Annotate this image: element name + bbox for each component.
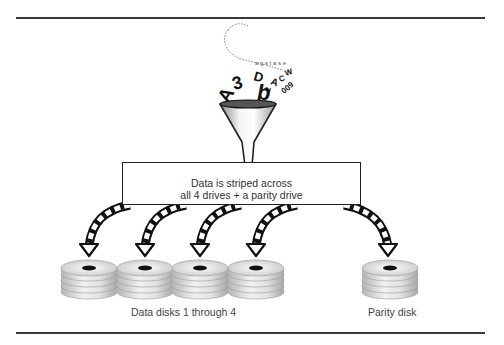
parity-disk-label: Parity disk xyxy=(368,306,416,318)
data-disks-label: Data disks 1 through 4 xyxy=(131,306,236,318)
bottom-rule xyxy=(16,332,485,334)
curved-arrow-icon xyxy=(80,205,130,256)
disk-stack-icon xyxy=(61,260,117,299)
process-box-line1: Data is striped across xyxy=(191,177,292,189)
funnel-icon xyxy=(220,100,276,167)
curved-arrow-icon xyxy=(136,205,186,256)
svg-text:a g s t a s e: a g s t a s e xyxy=(255,60,287,66)
curved-arrow-icon xyxy=(344,205,397,256)
data-stream: a g s t a s e 3 D b A A 2 C W 009 xyxy=(213,24,296,106)
disk-stack-icon xyxy=(228,260,284,299)
disk-stack-icon xyxy=(117,260,173,299)
disk-stack-icon xyxy=(172,260,228,299)
data-disks xyxy=(61,260,284,299)
parity-disk xyxy=(362,260,418,299)
process-box-line2: all 4 drives + a parity drive xyxy=(180,189,302,201)
curved-arrow-icon xyxy=(191,205,241,256)
disk-stack-icon xyxy=(362,260,418,299)
svg-text:W: W xyxy=(284,67,295,78)
curved-arrow-icon xyxy=(247,205,297,256)
striping-process-box: Data is striped across all 4 drives + a … xyxy=(122,162,361,205)
stripe-arrows xyxy=(80,205,397,256)
